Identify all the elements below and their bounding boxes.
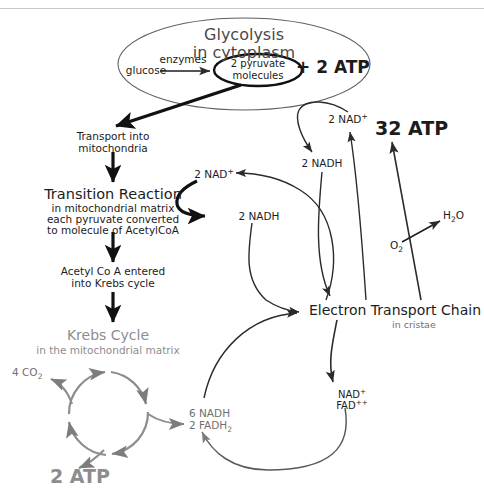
acetyl-coa-line1: Acetyl Co A entered: [61, 266, 165, 278]
glycolysis-title-line1: Glycolysis: [204, 26, 284, 44]
enzymes-label: enzymes: [160, 54, 207, 66]
etc-subtitle: in cristae: [392, 320, 436, 331]
transport-label-line2: mitochondria: [78, 143, 148, 155]
acetyl-coa-line2: into Krebs cycle: [71, 278, 155, 290]
glycolysis-atp-yield: + 2 ATP: [296, 58, 370, 77]
oxygen-subscript: 2: [398, 245, 403, 254]
etc-recycled-nad-superscript: +: [360, 387, 366, 396]
arrow-krebs-products-to-etc: [204, 313, 297, 398]
glycolysis-nad-plus-superscript: +: [361, 112, 367, 121]
transport-label-line1: Transport into: [77, 131, 150, 143]
arrow-etc-to-transition-nad: [236, 173, 333, 300]
arrow-krebs-to-co2: [51, 379, 72, 404]
transition-reaction-line3: to molecule of AcetylCoA: [47, 225, 179, 237]
oxygen-label: O2: [390, 240, 403, 252]
glycolysis-nadh-label: 2 NADH: [301, 158, 342, 170]
etc-atp-yield: 32 ATP: [375, 118, 448, 139]
krebs-co2-label: 4 CO2: [12, 367, 42, 379]
transition-nadh-label: 2 NADH: [238, 211, 279, 223]
arrow-krebs-to-products: [148, 414, 184, 424]
arrow-transition-nadh-to-etc: [249, 223, 299, 312]
krebs-co2-text: 4 CO: [12, 366, 38, 378]
pyruvate-label-line1: 2 pyruvate: [231, 58, 285, 69]
transition-nad-plus-label: 2 NAD+: [194, 169, 233, 181]
pyruvate-label-line2: molecules: [233, 70, 284, 81]
krebs-products-line2: 2 FADH2: [189, 420, 232, 432]
krebs-cycle-subtitle: in the mitochondrial matrix: [36, 345, 180, 357]
top-divider-rule: [0, 8, 484, 9]
krebs-atp-yield: 2 ATP: [50, 466, 110, 487]
krebs-cycle-ring: [69, 372, 148, 455]
water-label: H2O: [443, 210, 464, 222]
etc-recycled-fad-label: FAD++: [336, 400, 367, 411]
krebs-co2-subscript: 2: [38, 372, 43, 381]
etc-recycled-fad-superscript: ++: [356, 398, 368, 407]
krebs-arc-right: [111, 372, 146, 404]
diagram-canvas: Glycolysis in cytoplasm glucose enzymes …: [0, 0, 484, 496]
krebs-products-line1: 6 NADH: [189, 408, 230, 420]
arrow-glycolysis-nadh-to-etc: [318, 172, 330, 296]
krebs-products-fadh2-subscript: 2: [227, 425, 232, 434]
water-h-text: H: [443, 209, 451, 221]
etc-recycled-fad-text: FAD: [336, 400, 355, 411]
krebs-products-fadh2-text: 2 FADH: [189, 419, 227, 431]
krebs-cycle-title: Krebs Cycle: [67, 328, 149, 344]
glucose-label: glucose: [126, 65, 166, 77]
krebs-arc-bottom: [112, 412, 148, 454]
glycolysis-nad-plus-text: 2 NAD: [328, 113, 361, 125]
transition-nad-plus-superscript: +: [227, 167, 233, 176]
arrow-etc-to-glycolysis-nad: [350, 132, 366, 300]
krebs-arc-left: [69, 422, 106, 455]
transition-reaction-title: Transition Reaction: [44, 186, 182, 202]
arrow-pyruvate-to-transport: [116, 85, 241, 126]
arrow-o2-to-h2o: [402, 221, 440, 242]
arrow-etc-to-32atp: [392, 142, 421, 300]
arrow-glycolysis-nad-hook: [297, 102, 348, 152]
water-o-text: O: [456, 209, 464, 221]
transition-nad-plus-text: 2 NAD: [194, 168, 227, 180]
etc-title: Electron Transport Chain: [309, 303, 481, 319]
arrow-etc-to-recycled-carriers: [331, 320, 337, 382]
glycolysis-nad-plus-label: 2 NAD+: [328, 114, 367, 126]
krebs-arc-top: [69, 372, 105, 414]
